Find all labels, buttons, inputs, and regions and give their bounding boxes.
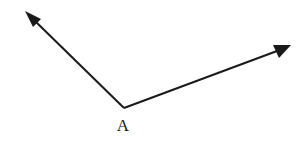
ray-upper-right-line — [124, 51, 277, 108]
angle-diagram-svg: Angle with vertex A and two rays A — [0, 0, 304, 144]
ray-upper-left-line — [35, 21, 124, 108]
vertex-label-a: A — [117, 116, 130, 135]
angle-figure: Angle with vertex A and two rays A — [0, 0, 304, 144]
